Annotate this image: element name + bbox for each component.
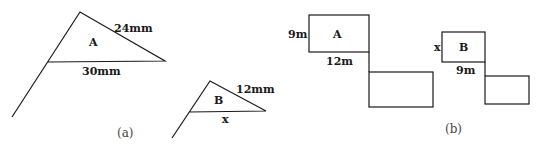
rectangle-b-offset-box xyxy=(485,76,529,104)
figure-b-caption: (b) xyxy=(445,122,462,136)
rectangle-a: A 9m 12m xyxy=(288,15,433,107)
rectangle-b-label: B xyxy=(459,41,468,54)
triangle-b-label: B xyxy=(214,94,223,107)
triangle-b-base-label: x xyxy=(222,113,229,126)
triangle-a-label: A xyxy=(88,36,98,49)
rectangle-a-width-label: 12m xyxy=(326,55,353,68)
triangle-a-base-label: 30mm xyxy=(82,65,121,78)
similar-figures-diagram: A 24mm 30mm B 12mm x (a) A 9m 12m B x 9m… xyxy=(0,0,539,147)
rectangle-a-offset-box xyxy=(369,72,433,107)
triangle-a-side-label: 24mm xyxy=(114,22,153,35)
triangle-b: B 12mm x xyxy=(172,81,275,138)
figure-a-caption: (a) xyxy=(117,126,134,140)
triangle-b-side-label: 12mm xyxy=(236,83,275,96)
rectangle-b-width-label: 9m xyxy=(456,64,476,77)
rectangle-b-height-label: x xyxy=(434,41,441,54)
triangle-a: A 24mm 30mm xyxy=(12,12,165,117)
rectangle-b: B x 9m xyxy=(434,32,529,104)
rectangle-a-height-label: 9m xyxy=(288,28,308,41)
rectangle-a-label: A xyxy=(332,28,342,41)
